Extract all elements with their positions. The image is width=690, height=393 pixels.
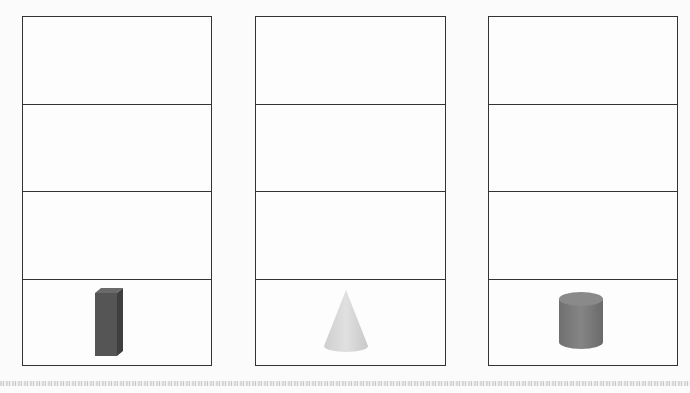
column-2-row-3	[256, 192, 445, 280]
cone-icon	[320, 288, 372, 356]
bottom-noise-strip	[0, 381, 690, 386]
column-3-row-1	[489, 17, 677, 105]
column-3-row-3	[489, 192, 677, 280]
cylinder-icon	[556, 290, 606, 352]
column-2-row-2	[256, 105, 445, 193]
column-1-row-1	[23, 17, 211, 105]
column-3-row-2	[489, 105, 677, 193]
rectangular-prism-icon	[93, 285, 127, 360]
column-1-row-2	[23, 105, 211, 193]
column-2-row-1	[256, 17, 445, 105]
column-1-row-3	[23, 192, 211, 280]
